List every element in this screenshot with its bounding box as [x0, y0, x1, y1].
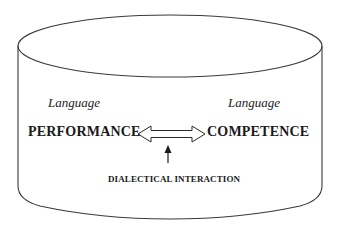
up-arrow-icon [165, 145, 172, 153]
left-language-label: Language [48, 96, 100, 109]
right-language-label: Language [228, 96, 280, 109]
double-arrow-icon [138, 126, 205, 142]
cylinder-diagram [0, 0, 338, 225]
cylinder-top [18, 15, 322, 77]
competence-label: COMPETENCE [207, 125, 309, 139]
performance-label: PERFORMANCE [28, 125, 141, 139]
dialectical-interaction-caption: DIALECTICAL INTERACTION [108, 175, 240, 184]
